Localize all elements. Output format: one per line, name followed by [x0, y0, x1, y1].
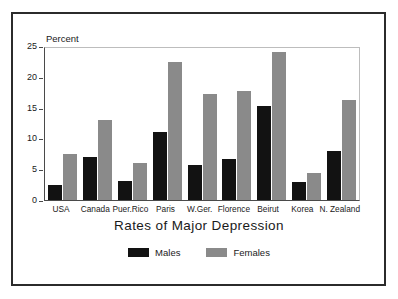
bar-group — [45, 48, 80, 200]
y-axis-tick-label: 10 — [27, 134, 37, 143]
legend-swatch-females — [206, 248, 227, 257]
bar-females-puer-rico — [133, 163, 147, 200]
y-axis-tick-mark — [39, 78, 43, 79]
x-axis-tick-label: Korea — [285, 203, 319, 217]
y-axis-tick-label: 0 — [32, 196, 37, 205]
y-axis-tick-label: 15 — [27, 104, 37, 113]
bar-females-paris — [168, 62, 182, 200]
y-axis-tick-label: 20 — [27, 73, 37, 82]
bar-males-w-ger — [188, 165, 202, 200]
bar-group — [115, 48, 150, 200]
y-axis-tick-mark — [39, 47, 43, 48]
bar-group — [254, 48, 289, 200]
y-axis-tick-mark — [39, 139, 43, 140]
bar-group — [80, 48, 115, 200]
legend-item-females: Females — [206, 247, 269, 258]
bar-males-puer-rico — [118, 181, 132, 200]
y-axis-tick-label: 25 — [27, 42, 37, 51]
x-axis-tick-label: Florence — [217, 203, 251, 217]
legend-label: Males — [155, 247, 180, 258]
bar-males-beirut — [257, 106, 271, 200]
bar-females-canada — [98, 120, 112, 200]
bar-females-korea — [307, 173, 321, 200]
bar-males-n-zealand — [327, 151, 341, 200]
legend-label: Females — [233, 247, 269, 258]
chart-title: Rates of Major Depression — [0, 218, 398, 233]
bar-females-n-zealand — [342, 100, 356, 200]
bar-group — [219, 48, 254, 200]
bar-females-w-ger — [203, 94, 217, 200]
y-axis-tick-mark — [39, 109, 43, 110]
legend-item-males: Males — [128, 247, 180, 258]
y-axis: 0510152025 — [0, 41, 44, 207]
x-axis-tick-label: Paris — [148, 203, 182, 217]
x-axis-tick-label: W.Ger. — [183, 203, 217, 217]
chart-legend: MalesFemales — [0, 247, 398, 258]
legend-swatch-males — [128, 248, 149, 257]
bar-group — [185, 48, 220, 200]
bar-group — [150, 48, 185, 200]
bar-males-usa — [48, 185, 62, 200]
x-axis-labels: USACanadaPuer.RicoParisW.Ger.FlorenceBei… — [44, 203, 360, 217]
y-axis-title: Percent — [46, 33, 79, 44]
bar-males-florence — [222, 159, 236, 200]
bar-males-korea — [292, 182, 306, 200]
bar-females-florence — [237, 91, 251, 200]
y-axis-tick-mark — [39, 170, 43, 171]
bar-males-canada — [83, 157, 97, 200]
plot-area — [44, 47, 360, 201]
bar-females-usa — [63, 154, 77, 200]
x-axis-tick-label: N. Zealand — [319, 203, 360, 217]
x-axis-tick-label: USA — [44, 203, 78, 217]
y-axis-tick-mark — [39, 201, 43, 202]
chart-figure: Percent 0510152025 USACanadaPuer.RicoPar… — [0, 0, 398, 299]
bar-females-beirut — [272, 52, 286, 200]
bar-males-paris — [153, 132, 167, 200]
x-axis-tick-label: Canada — [78, 203, 112, 217]
bar-group — [289, 48, 324, 200]
bar-groups — [45, 48, 359, 200]
y-axis-tick-label: 5 — [32, 165, 37, 174]
x-axis-tick-label: Beirut — [251, 203, 285, 217]
x-axis-tick-label: Puer.Rico — [112, 203, 148, 217]
bar-group — [324, 48, 359, 200]
